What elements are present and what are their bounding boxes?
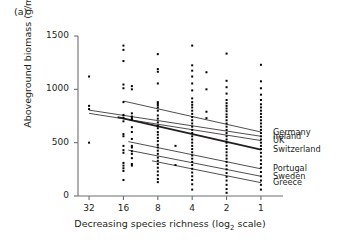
data-point bbox=[157, 114, 159, 116]
data-point bbox=[157, 140, 159, 142]
data-point bbox=[191, 189, 193, 191]
data-point bbox=[226, 180, 228, 182]
data-point bbox=[157, 146, 159, 148]
data-point bbox=[205, 71, 207, 73]
data-point bbox=[175, 164, 177, 166]
data-point bbox=[157, 121, 159, 123]
data-point bbox=[226, 138, 228, 140]
data-point bbox=[260, 171, 262, 173]
data-point bbox=[157, 134, 159, 136]
data-point bbox=[191, 161, 193, 163]
data-point bbox=[260, 138, 262, 140]
data-point bbox=[226, 108, 228, 110]
data-point bbox=[226, 105, 228, 107]
data-point bbox=[260, 167, 262, 169]
y-tick-label: 0 bbox=[39, 191, 69, 200]
data-point bbox=[226, 116, 228, 118]
data-point bbox=[260, 94, 262, 96]
data-point bbox=[260, 148, 262, 150]
data-point bbox=[157, 163, 159, 165]
data-point bbox=[131, 153, 133, 155]
data-point bbox=[226, 113, 228, 115]
x-tick-label: 2 bbox=[216, 204, 238, 213]
data-point bbox=[157, 68, 159, 70]
data-point bbox=[122, 162, 124, 164]
data-point bbox=[157, 71, 159, 73]
data-point bbox=[260, 184, 262, 186]
data-point bbox=[157, 110, 159, 112]
data-point bbox=[157, 53, 159, 55]
regression-line-uk bbox=[89, 113, 261, 140]
regression-lines bbox=[89, 101, 261, 183]
x-tick-label: 1 bbox=[250, 204, 272, 213]
data-point bbox=[122, 84, 124, 86]
data-point bbox=[191, 104, 193, 106]
data-point bbox=[260, 129, 262, 131]
data-point bbox=[122, 101, 124, 103]
data-point bbox=[191, 45, 193, 47]
data-point bbox=[157, 125, 159, 127]
y-tick-label: 1000 bbox=[39, 84, 69, 93]
data-point bbox=[122, 45, 124, 47]
data-point bbox=[226, 192, 228, 194]
data-point bbox=[260, 106, 262, 108]
data-point bbox=[122, 135, 124, 137]
data-point bbox=[157, 178, 159, 180]
data-point bbox=[88, 105, 90, 107]
data-point bbox=[226, 165, 228, 167]
data-point bbox=[191, 145, 193, 147]
data-point bbox=[191, 116, 193, 118]
data-point bbox=[191, 97, 193, 99]
data-point bbox=[191, 129, 193, 131]
data-point bbox=[191, 175, 193, 177]
data-point bbox=[226, 176, 228, 178]
data-point bbox=[260, 180, 262, 182]
data-point bbox=[131, 131, 133, 133]
regression-line-ireland bbox=[89, 110, 261, 136]
data-point bbox=[157, 144, 159, 146]
data-point bbox=[157, 104, 159, 106]
data-point bbox=[157, 174, 159, 176]
data-point bbox=[260, 116, 262, 118]
data-point bbox=[122, 60, 124, 62]
data-point bbox=[191, 148, 193, 150]
data-point bbox=[131, 85, 133, 87]
data-point bbox=[260, 103, 262, 105]
data-point bbox=[226, 161, 228, 163]
data-point bbox=[260, 132, 262, 134]
data-point bbox=[226, 102, 228, 104]
data-point bbox=[226, 126, 228, 128]
data-point bbox=[122, 87, 124, 89]
x-tick-label: 16 bbox=[112, 204, 134, 213]
data-point bbox=[260, 145, 262, 147]
data-point bbox=[88, 76, 90, 78]
data-point bbox=[157, 167, 159, 169]
data-point bbox=[131, 150, 133, 152]
data-point bbox=[131, 165, 133, 167]
data-point bbox=[226, 168, 228, 170]
data-point bbox=[226, 184, 228, 186]
data-point bbox=[260, 189, 262, 191]
data-point bbox=[260, 99, 262, 101]
data-point bbox=[191, 89, 193, 91]
legend-label-uk: UK bbox=[273, 136, 284, 144]
data-point bbox=[157, 127, 159, 129]
data-point bbox=[226, 145, 228, 147]
data-point bbox=[191, 70, 193, 72]
data-point bbox=[191, 122, 193, 124]
data-point bbox=[122, 167, 124, 169]
data-point bbox=[191, 138, 193, 140]
data-point bbox=[260, 110, 262, 112]
data-point bbox=[175, 145, 177, 147]
data-point bbox=[226, 148, 228, 150]
data-point bbox=[226, 129, 228, 131]
data-point bbox=[191, 64, 193, 66]
data-point bbox=[260, 119, 262, 121]
data-point bbox=[191, 106, 193, 108]
legend-label-switzerland: Switzerland bbox=[273, 145, 321, 153]
regression-line-sweden bbox=[128, 150, 261, 176]
data-point bbox=[191, 110, 193, 112]
data-point bbox=[205, 88, 207, 90]
x-tick-label: 4 bbox=[181, 204, 203, 213]
y-tick-label: 1500 bbox=[39, 31, 69, 40]
